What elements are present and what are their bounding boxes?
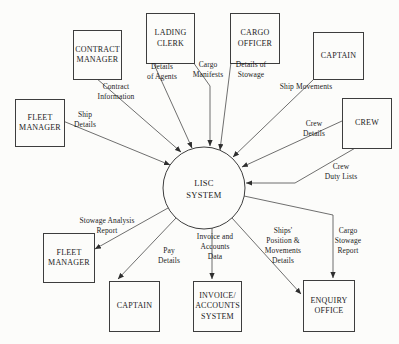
flow-label-ship-movements: Ship Movements — [268, 82, 344, 92]
flow-label-crew-duty-lists: Crew Duty Lists — [315, 162, 367, 182]
entity-captain-top: CAPTAIN — [313, 32, 364, 80]
entity-fleet-manager-top: FLEET MANAGER — [15, 99, 65, 147]
flow-label-stowage-analysis-report: Stowage Analysis Report — [69, 216, 145, 236]
entity-contract-manager: CONTRACT MANAGER — [73, 30, 122, 80]
entity-fleet-manager-bottom: FLEET MANAGER — [43, 233, 95, 283]
flow-label-details-of-stowage: Details of Stowage — [225, 60, 277, 80]
flow-label-contract-information: Contract Information — [88, 82, 144, 102]
flow-label-cargo-stowage-report: Cargo Stowage Report — [322, 226, 374, 256]
entity-captain-bottom: CAPTAIN — [109, 281, 160, 332]
lisc-system-context-diagram: LISC SYSTEM CONTRACT MANAGER LADING CLER… — [0, 0, 399, 344]
flow-label-crew-details: Crew Details — [292, 119, 336, 139]
entity-lading-clerk: LADING CLERK — [146, 13, 195, 64]
entity-enquiry-office: ENQUIRY OFFICE — [303, 280, 355, 332]
flow-label-details-of-agents: Details of Agents — [138, 62, 186, 82]
entity-cargo-officer: CARGO OFFICER — [230, 13, 280, 64]
process-label-lisc-system: LISC SYSTEM — [174, 177, 234, 202]
flow-label-pay-details: Pay Details — [149, 246, 189, 266]
flow-label-invoice-and-accounts-data: Invoice and Accounts Data — [187, 232, 243, 262]
entity-crew: CREW — [342, 98, 392, 149]
entity-invoice-accounts-system: INVOICE/ ACCOUNTS SYSTEM — [193, 281, 242, 332]
flow-label-ships-position-movements-details: Ships' Position & Movements Details — [253, 226, 313, 266]
flow-label-ship-details: Ship Details — [65, 110, 105, 130]
